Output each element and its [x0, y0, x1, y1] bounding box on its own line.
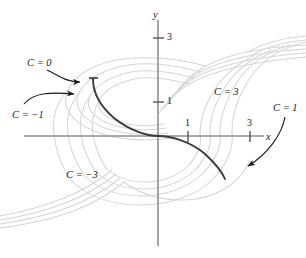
y-tick-label-1: 1: [167, 96, 172, 106]
label-c-three: C = 3: [214, 87, 239, 98]
contour-curve-loop-4: [99, 78, 189, 126]
x-tick-label-3: 3: [247, 118, 252, 128]
contour-curve-upper-fan-1: [252, 40, 306, 55]
contour-curve-lower-loop-4: [106, 134, 201, 182]
y-tick-label-3: 3: [167, 32, 172, 42]
contour-curve-left-hook-2: [67, 93, 85, 176]
contour-plot-canvas: [0, 0, 306, 258]
contour-curve-loop-3: [88, 71, 194, 130]
label-c-zero: C = 0: [27, 58, 52, 69]
contour-curve-lower-envelope: [124, 160, 250, 200]
axis-label-y: y: [153, 10, 158, 21]
axis-label-x: x: [266, 132, 271, 143]
label-c-minus-three: C = −3: [66, 170, 98, 181]
highlight-curve-group: [89, 78, 225, 179]
contour-curve-upper-2: [165, 49, 306, 107]
label-c-one: C = 1: [273, 103, 298, 114]
label-c-minus-one: C = −1: [12, 110, 44, 121]
contour-plot-figure: C = 0 C = −1 C = 3 C = 1 C = −3 y x 3 1 …: [0, 0, 306, 258]
contour-curve-right-1: [232, 42, 306, 132]
x-tick-label-1: 1: [185, 118, 190, 128]
contour-curve-left-hook-3: [80, 96, 96, 172]
